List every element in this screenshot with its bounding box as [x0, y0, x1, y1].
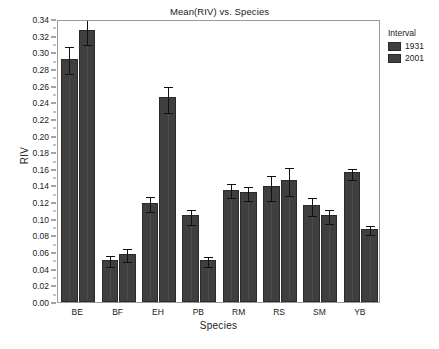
y-axis-label: RIV [19, 126, 30, 186]
error-bar [248, 187, 249, 200]
error-bar-cap-upper [65, 47, 74, 48]
error-bar [208, 257, 209, 267]
y-tick-label: 0.12 [32, 198, 49, 208]
error-bar [69, 47, 70, 74]
error-bar-cap-upper [123, 249, 132, 250]
bar [303, 205, 320, 302]
y-tick-minor [53, 61, 56, 62]
x-tick-label: RS [273, 307, 285, 317]
error-bar-cap-upper [146, 197, 155, 198]
y-tick-minor [53, 261, 56, 262]
error-bar-cap-lower [244, 201, 253, 202]
error-bar-cap-upper [164, 87, 173, 88]
bar [281, 180, 298, 302]
error-bar-cap-upper [285, 168, 294, 169]
y-tick-label: 0.06 [32, 248, 49, 258]
y-tick-mark [51, 253, 56, 254]
y-tick-minor [53, 194, 56, 195]
legend-title: Interval [388, 28, 438, 38]
error-bar [329, 210, 330, 224]
y-tick-minor [53, 278, 56, 279]
error-bar [168, 87, 169, 113]
error-bar [312, 198, 313, 215]
y-tick-mark [51, 86, 56, 87]
y-tick-mark [51, 119, 56, 120]
error-bar-cap-upper [106, 256, 115, 257]
y-tick-label: 0.14 [32, 181, 49, 191]
x-tick-label: PB [193, 307, 204, 317]
error-bar [87, 20, 88, 45]
y-tick-mark [51, 303, 56, 304]
y-tick-minor [53, 161, 56, 162]
y-tick-label: 0.10 [32, 215, 49, 225]
error-bar-cap-lower [123, 262, 132, 263]
y-tick-label: 0.34 [32, 15, 49, 25]
y-tick-mark [51, 219, 56, 220]
chart-figure: Mean(RIV) vs. Species 0.000.020.040.060.… [0, 0, 439, 349]
y-tick-mark [51, 203, 56, 204]
y-tick-mark [51, 53, 56, 54]
error-bar [231, 184, 232, 198]
error-bar-cap-lower [65, 74, 74, 75]
error-bar [110, 256, 111, 268]
y-tick-label: 0.30 [32, 48, 49, 58]
legend-label: 1931 [405, 41, 424, 51]
x-tick-label: YB [354, 307, 365, 317]
x-tick-label: BE [72, 307, 83, 317]
x-tick-label: RM [232, 307, 245, 317]
error-bar-cap-lower [164, 113, 173, 114]
error-bar [150, 197, 151, 212]
error-bar-cap-upper [366, 226, 375, 227]
error-bar-cap-upper [267, 176, 276, 177]
error-bar-cap-upper [308, 198, 317, 199]
error-bar-cap-lower [285, 196, 294, 197]
bar [240, 192, 257, 302]
bar [344, 172, 361, 302]
error-bar-cap-lower [325, 224, 334, 225]
y-tick-minor [53, 111, 56, 112]
error-bar-cap-lower [308, 216, 317, 217]
y-tick-minor [53, 244, 56, 245]
legend-item: 2001 [388, 53, 438, 63]
y-tick-mark [51, 103, 56, 104]
y-tick-minor [53, 228, 56, 229]
error-bar-cap-upper [348, 169, 357, 170]
y-tick-label: 0.24 [32, 98, 49, 108]
error-bar-cap-lower [146, 212, 155, 213]
y-tick-label: 0.18 [32, 148, 49, 158]
error-bar-cap-lower [83, 45, 92, 46]
x-tick-label: SM [313, 307, 326, 317]
error-bar [191, 210, 192, 225]
y-tick-label: 0.26 [32, 82, 49, 92]
chart-title: Mean(RIV) vs. Species [0, 6, 439, 17]
error-bar-cap-lower [227, 198, 236, 199]
y-tick-label: 0.20 [32, 132, 49, 142]
y-tick-label: 0.00 [32, 298, 49, 308]
y-tick-minor [53, 144, 56, 145]
error-bar-cap-upper [244, 187, 253, 188]
y-tick-mark [51, 136, 56, 137]
bar [263, 186, 280, 302]
error-bar-cap-lower [267, 201, 276, 202]
error-bar-cap-upper [227, 184, 236, 185]
bar [223, 190, 240, 302]
y-tick-mark [51, 153, 56, 154]
y-tick-label: 0.02 [32, 281, 49, 291]
bar [182, 215, 199, 302]
y-tick-minor [53, 128, 56, 129]
y-tick-minor [53, 94, 56, 95]
bar [61, 59, 78, 302]
legend-items: 19312001 [388, 41, 438, 63]
legend: Interval 19312001 [388, 28, 438, 65]
bar [142, 203, 159, 302]
legend-label: 2001 [405, 53, 424, 63]
y-tick-label: 0.32 [32, 32, 49, 42]
bar [159, 97, 176, 302]
y-tick-mark [51, 286, 56, 287]
y-tick-label: 0.22 [32, 115, 49, 125]
y-tick-mark [51, 186, 56, 187]
plot-area [57, 20, 380, 303]
y-tick-label: 0.08 [32, 231, 49, 241]
x-tick-label: EH [152, 307, 164, 317]
error-bar-cap-lower [187, 225, 196, 226]
